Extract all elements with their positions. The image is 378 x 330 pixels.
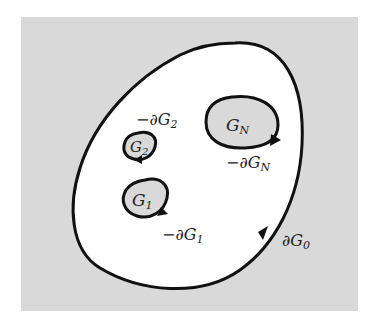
hole-GN xyxy=(206,97,278,149)
multiply-connected-domain-diagram: G2 G1 GN −∂G2 −∂G1 −∂GN ∂G0 xyxy=(0,0,378,330)
